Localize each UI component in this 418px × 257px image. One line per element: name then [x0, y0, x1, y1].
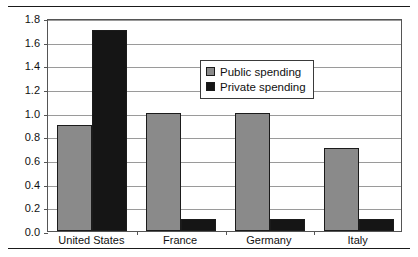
private-swatch-icon: [206, 82, 215, 91]
y-tick-label: 1.6: [2, 37, 40, 49]
chart-legend: Public spending Private spending: [200, 60, 314, 99]
y-tick-label: 0.4: [2, 179, 40, 191]
x-tick-label: Italy: [348, 234, 368, 246]
bar-public: [146, 113, 181, 231]
bar-public: [235, 113, 270, 231]
x-tick-label: United States: [58, 234, 124, 246]
y-tick-label: 0.8: [2, 131, 40, 143]
y-tick-label: 0.6: [2, 155, 40, 167]
y-tick-label: 0.2: [2, 202, 40, 214]
top-rule: [8, 6, 410, 7]
legend-label-public: Public spending: [220, 66, 301, 78]
y-tick-label: 1.0: [2, 108, 40, 120]
figure: Public spending Private spending 0.00.20…: [0, 0, 418, 257]
y-tick-label: 1.2: [2, 84, 40, 96]
x-tick-label: France: [163, 234, 197, 246]
bar-private: [181, 219, 216, 231]
plot-area: Public spending Private spending: [47, 19, 402, 232]
bar-private: [92, 30, 127, 231]
bar-private: [359, 219, 394, 231]
x-axis-labels: United StatesFranceGermanyItaly: [47, 234, 402, 250]
legend-item-private: Private spending: [206, 79, 306, 94]
bar-public: [324, 148, 359, 231]
legend-label-private: Private spending: [220, 81, 306, 93]
y-tick-label: 1.4: [2, 60, 40, 72]
bar-public: [57, 125, 92, 232]
x-tick-label: Germany: [246, 234, 291, 246]
bar-series-container: [48, 20, 401, 231]
public-swatch-icon: [206, 67, 215, 76]
legend-item-public: Public spending: [206, 64, 306, 79]
y-tick-label: 0.0: [2, 226, 40, 238]
y-tick-label: 1.8: [2, 13, 40, 25]
bar-private: [270, 219, 305, 231]
